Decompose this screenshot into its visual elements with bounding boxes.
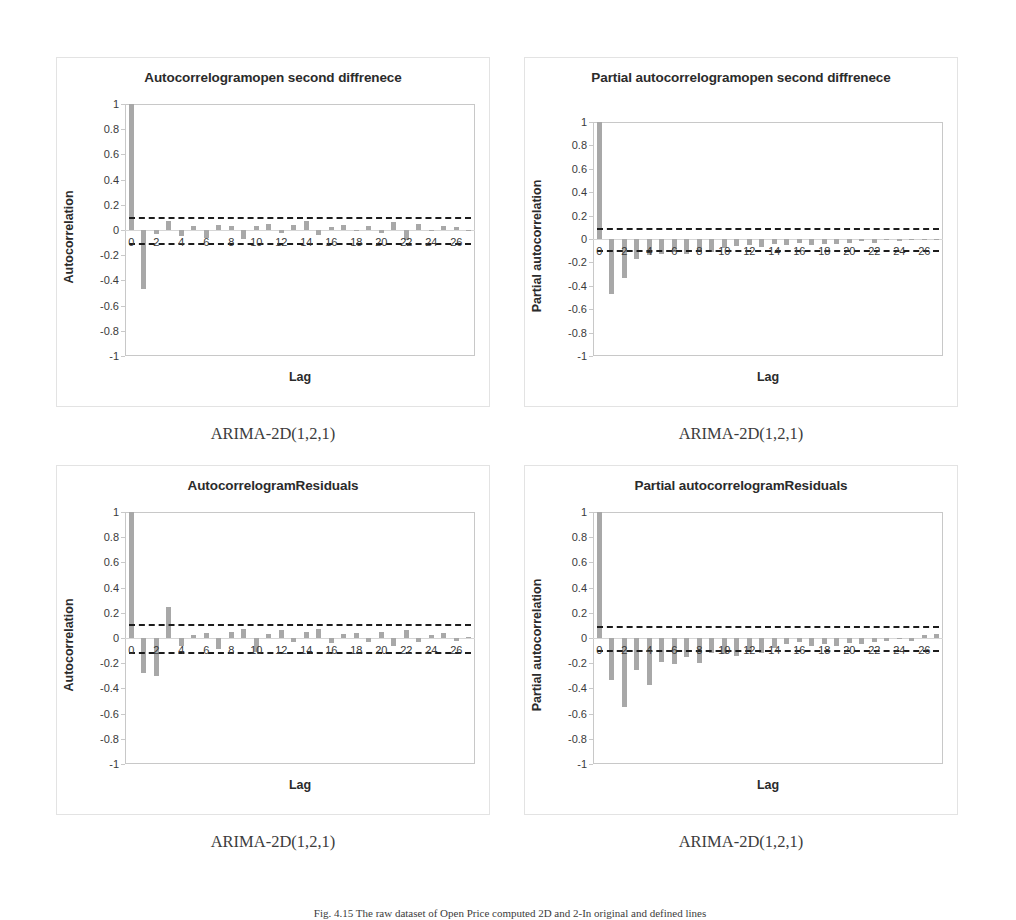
acf-bar: [454, 638, 459, 641]
x-axis-tick-label: 18: [818, 245, 830, 257]
zero-axis-line: [593, 638, 943, 639]
y-axis-tick-label: 0.2: [559, 210, 587, 222]
y-axis-tick-label: -1: [559, 758, 587, 770]
y-axis-tick-label: 0: [91, 632, 119, 644]
acf-bar: [366, 226, 371, 230]
zero-axis-line: [125, 638, 475, 639]
y-axis-tick-label: 0.4: [91, 582, 119, 594]
y-axis-tick-mark: [121, 764, 125, 765]
x-axis-tick-label: 2: [621, 245, 627, 257]
y-axis-tick-mark: [589, 764, 593, 765]
acf-bar: [304, 221, 309, 230]
x-axis-tick-label: 24: [893, 245, 905, 257]
acf-bar: [809, 638, 814, 646]
acf-bar: [341, 634, 346, 638]
acf-bar: [429, 230, 434, 231]
y-axis-tick-label: 0.4: [91, 174, 119, 186]
x-axis-tick-label: 24: [425, 644, 437, 656]
acf-bar: [634, 239, 639, 259]
acf-bar: [772, 239, 777, 244]
chart-cell-acf-residuals: AutocorrelogramResiduals Autocorrelation…: [56, 465, 490, 815]
acf-bar: [191, 226, 196, 230]
acf-bar: [797, 239, 802, 243]
y-axis-tick-label: 0.4: [559, 582, 587, 594]
acf-bar: [872, 638, 877, 642]
y-axis-tick-label: 0.4: [559, 186, 587, 198]
x-axis-tick-label: 10: [718, 644, 730, 656]
acf-bar: [934, 634, 939, 638]
plot-area: Autocorrelation10.80.60.40.20-0.2-0.4-0.…: [57, 504, 489, 816]
x-axis-tick-label: 4: [178, 236, 184, 248]
zero-axis-line: [593, 239, 943, 240]
acf-bar: [884, 239, 889, 240]
acf-bar: [416, 224, 421, 230]
x-axis-tick-label: 4: [178, 644, 184, 656]
acf-bar: [379, 632, 384, 638]
acf-bar: [784, 239, 789, 245]
y-axis-tick-label: 0.8: [91, 531, 119, 543]
y-axis-tick-mark: [121, 356, 125, 357]
acf-bar: [166, 221, 171, 230]
acf-bar: [847, 239, 852, 243]
acf-bar: [154, 230, 159, 234]
acf-bar: [341, 225, 346, 230]
acf-bar: [822, 239, 827, 244]
x-axis-tick-label: 0: [128, 236, 134, 248]
acf-bar: [834, 239, 839, 244]
figure-caption: Fig. 4.15 The raw dataset of Open Price …: [130, 907, 890, 919]
acf-bar: [441, 633, 446, 638]
acf-bar: [141, 230, 146, 289]
acf-bar: [859, 239, 864, 241]
x-axis-tick-label: 22: [868, 245, 880, 257]
acf-bar: [391, 638, 396, 646]
x-axis-tick-label: 10: [718, 245, 730, 257]
chart-cell-pacf-residuals: Partial autocorrelogramResiduals Partial…: [524, 465, 958, 815]
acf-bar: [391, 222, 396, 230]
acf-bar: [847, 638, 852, 643]
acf-bar: [797, 638, 802, 642]
acf-bar: [897, 638, 902, 639]
acf-bar: [129, 512, 134, 638]
x-axis-title: Lag: [289, 370, 311, 384]
chart-panel: Partial autocorrelogramopen second diffr…: [524, 57, 958, 407]
x-axis-tick-label: 6: [203, 236, 209, 248]
acf-bar: [291, 225, 296, 230]
upper-confidence-band: [597, 228, 939, 230]
y-axis-title: Partial autocorrelation: [530, 519, 544, 771]
y-axis-tick-label: -0.8: [559, 327, 587, 339]
y-axis-tick-label: -0.6: [91, 300, 119, 312]
y-axis-tick-label: 1: [559, 116, 587, 128]
upper-confidence-band: [129, 217, 471, 219]
y-axis-tick-label: 0.6: [559, 556, 587, 568]
chart-panel: Autocorrelogramopen second diffrenece Au…: [56, 57, 490, 407]
y-axis-tick-label: -0.2: [559, 657, 587, 669]
y-axis-tick-label: -0.6: [559, 303, 587, 315]
x-axis-tick-label: 16: [793, 245, 805, 257]
y-axis-title: Partial autocorrelation: [530, 129, 544, 363]
x-axis-tick-label: 26: [450, 644, 462, 656]
x-axis-title: Lag: [757, 370, 779, 384]
x-axis-tick-label: 0: [596, 644, 602, 656]
x-axis-tick-label: 26: [450, 236, 462, 248]
upper-confidence-band: [129, 624, 471, 626]
acf-bar: [191, 635, 196, 638]
acf-bar: [354, 633, 359, 638]
x-axis-tick-label: 14: [300, 236, 312, 248]
acf-bar: [416, 638, 421, 642]
x-axis-tick-label: 14: [768, 245, 780, 257]
x-axis-tick-label: 18: [818, 644, 830, 656]
acf-bar: [291, 638, 296, 642]
y-axis-tick-label: 0.8: [559, 531, 587, 543]
x-axis-title: Lag: [289, 778, 311, 792]
x-axis-tick-label: 10: [250, 236, 262, 248]
acf-bar: [834, 638, 839, 646]
acf-bar: [634, 638, 639, 670]
x-axis-tick-label: 4: [646, 245, 652, 257]
acf-bar: [379, 230, 384, 233]
x-axis-tick-label: 14: [768, 644, 780, 656]
acf-bar: [216, 225, 221, 230]
acf-bar: [129, 104, 134, 230]
acf-bar: [241, 230, 246, 239]
y-axis-tick-label: 0.6: [559, 163, 587, 175]
y-axis-tick-label: -0.2: [559, 256, 587, 268]
